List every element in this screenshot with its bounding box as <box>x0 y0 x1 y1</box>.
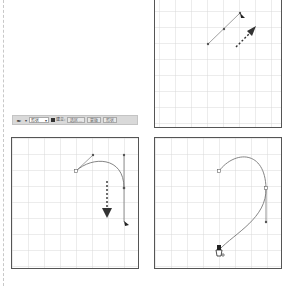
mode-select[interactable]: 形状 ▾ <box>29 117 49 123</box>
shape-button[interactable]: 形状 <box>103 117 117 123</box>
pen-options-toolbar: ✒ ▾ 形状 ▾ 建立: 选区... 蒙版 形状 <box>12 115 138 125</box>
checkbox-icon <box>51 118 55 122</box>
canvas-grid-curve-drag <box>12 138 139 269</box>
panel-top-right <box>154 0 282 128</box>
tool-preset-dropdown[interactable]: ▾ <box>25 118 27 123</box>
mask-button[interactable]: 蒙版 <box>87 117 101 123</box>
make-label: 建立: <box>56 117 65 123</box>
panel-bottom-right <box>154 137 282 269</box>
panel-bottom-left <box>11 137 139 269</box>
mode-select-value: 形状 <box>31 118 39 122</box>
make-checkbox[interactable]: 建立: <box>51 117 65 123</box>
page-margin-guide <box>3 0 4 286</box>
pen-tool-icon[interactable]: ✒ <box>15 117 23 123</box>
selection-button[interactable]: 选区... <box>67 117 85 123</box>
canvas-grid-completed-path <box>155 138 282 269</box>
canvas-grid-straight-segment <box>155 0 282 128</box>
chevron-down-icon: ▾ <box>45 118 47 122</box>
